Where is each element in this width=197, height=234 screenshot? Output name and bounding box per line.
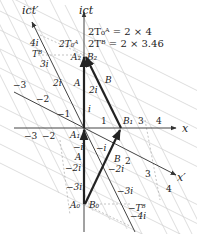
label-A-lower: A bbox=[74, 152, 82, 162]
t-tick-neg-i: −i bbox=[73, 142, 84, 152]
t-tick-2i: 2i bbox=[88, 85, 98, 95]
xp-tick-2: 2 bbox=[125, 156, 131, 166]
label-2TA0: 2T₀ᴬ bbox=[58, 39, 78, 49]
x-tick-1: 1 bbox=[101, 116, 107, 126]
tp-tick-neg-4i: −4i bbox=[130, 211, 146, 221]
tp-tick-neg-3i: −3i bbox=[117, 186, 133, 196]
label-B1: B₁ bbox=[122, 116, 133, 126]
x-prime-label: x′ bbox=[177, 171, 186, 184]
xp-tick-4: 4 bbox=[166, 184, 172, 194]
label-TB-top: Tᴮ bbox=[32, 49, 42, 59]
x-tick-neg3: −3 bbox=[24, 131, 38, 141]
tp-tick-4i: 4i bbox=[29, 38, 39, 48]
x-prime-axis bbox=[14, 92, 176, 175]
xp-tick-3: 3 bbox=[145, 169, 151, 179]
x-tick-3: 3 bbox=[138, 116, 144, 126]
label-B-lower: B bbox=[113, 154, 121, 164]
label-B-upper: B bbox=[104, 75, 112, 85]
label-A-upper: A bbox=[73, 78, 81, 88]
label-A0: A₀ bbox=[69, 200, 80, 210]
ict-label: ict bbox=[79, 4, 94, 17]
xp-tick-neg1: −1 bbox=[57, 109, 70, 119]
label-A1: A₁ bbox=[69, 130, 80, 140]
tp-tick-neg-2i: −2i bbox=[108, 164, 124, 174]
x-label: x bbox=[182, 122, 189, 135]
label-B2: B₂ bbox=[86, 52, 98, 62]
spacetime-diagram: ict′ ict x x′ 2T₀ᴬ = 2 × 4 2Tᴮ = 2 × 3.4… bbox=[0, 0, 197, 234]
tp-tick-2i: 2i bbox=[52, 78, 62, 88]
ict-prime-label: ict′ bbox=[22, 4, 39, 17]
x-tick-4: 4 bbox=[156, 116, 162, 126]
t-tick-neg-2i: −2i bbox=[65, 163, 81, 173]
annotation-2TA0: 2T₀ᴬ = 2 × 4 bbox=[88, 26, 152, 37]
annotation-2TB: 2Tᴮ = 2 × 3.46 bbox=[88, 38, 164, 49]
tp-tick-neg-i: −i bbox=[96, 143, 107, 153]
xp-tick-neg2: −2 bbox=[36, 94, 49, 104]
label-B0: B₀ bbox=[88, 200, 100, 210]
x-tick-neg2: −2 bbox=[42, 131, 55, 141]
t-tick-i: i bbox=[88, 104, 91, 114]
tp-tick-3i: 3i bbox=[40, 59, 49, 69]
label-A2: A₂ bbox=[70, 52, 81, 62]
xp-tick-neg3: −3 bbox=[13, 80, 27, 90]
t-tick-neg-3i: −3i bbox=[66, 182, 82, 192]
